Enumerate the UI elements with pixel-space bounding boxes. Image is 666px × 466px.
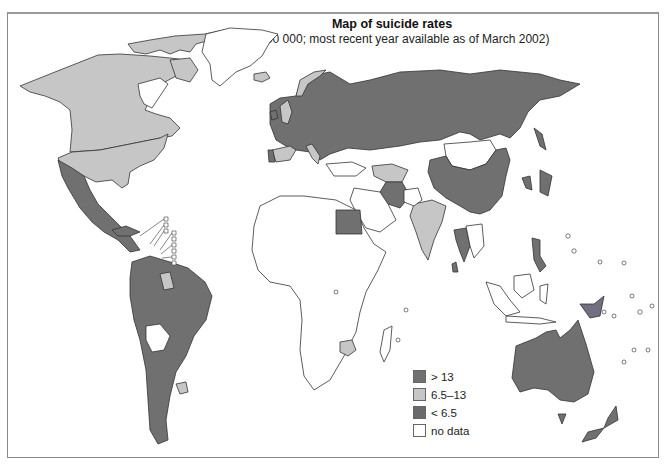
world-map <box>0 0 666 466</box>
region-zimbabwe <box>340 340 356 356</box>
region-papua-new-guinea <box>580 296 604 318</box>
region-new-zealand <box>604 406 618 428</box>
legend-swatch-medium <box>413 388 426 401</box>
region-java <box>506 316 556 324</box>
legend-label-no-data: no data <box>431 425 469 437</box>
legend-swatch-low <box>413 406 426 419</box>
region-uruguay <box>176 382 188 394</box>
legend-item-no-data: no data <box>413 422 469 439</box>
region-sakhalin <box>534 128 546 150</box>
legend-swatch-high <box>413 370 426 383</box>
legend-label-low: < 6.5 <box>431 407 457 419</box>
region-borneo <box>514 274 534 298</box>
legend-label-high: > 13 <box>431 371 454 383</box>
region-sri-lanka <box>452 262 458 272</box>
legend-item-high: > 13 <box>413 368 469 385</box>
region-tasmania <box>558 414 566 424</box>
region-new-zealand-south <box>582 428 604 442</box>
region-australia <box>512 320 594 402</box>
region-philippines <box>532 238 546 272</box>
region-baffin <box>170 58 198 82</box>
region-japan <box>540 170 552 196</box>
region-spain <box>272 146 296 162</box>
region-sulawesi <box>540 284 548 304</box>
region-iceland <box>254 72 270 82</box>
region-india <box>410 200 446 260</box>
region-europe-russia <box>270 70 580 160</box>
legend-swatch-no-data <box>413 424 426 437</box>
legend-item-low: < 6.5 <box>413 404 469 421</box>
region-turkey <box>326 162 366 176</box>
legend-item-medium: 6.5–13 <box>413 386 469 403</box>
region-indochina <box>466 224 484 258</box>
map-legend: > 13 6.5–13 < 6.5 no data <box>413 368 469 440</box>
region-egypt <box>336 210 362 234</box>
region-madagascar <box>380 326 392 362</box>
legend-label-medium: 6.5–13 <box>431 389 466 401</box>
region-korea <box>522 176 532 190</box>
region-central-asia <box>372 164 408 182</box>
